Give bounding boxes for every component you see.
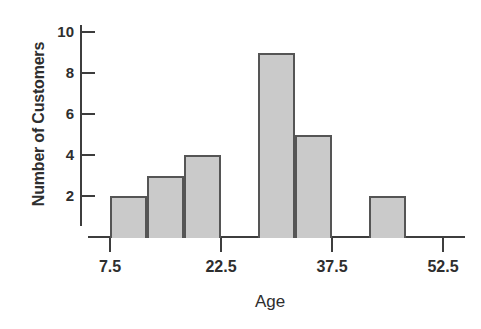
y-tick-mark: [82, 31, 95, 33]
y-tick-label-text: 4: [44, 147, 74, 162]
histogram-bar: [258, 53, 295, 239]
y-tick-label-text: 2: [44, 188, 74, 203]
histogram-bar: [295, 135, 332, 239]
histogram-bar: [147, 176, 184, 239]
y-tick-label-text: 10: [44, 24, 74, 39]
histogram-bar: [110, 196, 147, 238]
x-axis-title: Age: [190, 292, 350, 312]
y-tick-label: 6: [42, 106, 74, 121]
y-tick-mark: [82, 72, 95, 74]
histogram-bar: [184, 155, 221, 238]
x-tick-label: 7.5: [80, 258, 140, 276]
histogram-figure: Number of Customers 246810 7.522.537.552…: [0, 0, 481, 329]
y-tick-label: 4: [42, 147, 74, 162]
x-tick-mark: [331, 238, 333, 252]
y-tick-label-text: 6: [44, 106, 74, 121]
x-tick-label: 37.5: [302, 258, 362, 276]
y-tick-label-text: 8: [44, 65, 74, 80]
histogram-bar: [369, 196, 406, 238]
x-tick-label: 52.5: [413, 258, 473, 276]
y-tick-label: 10: [42, 24, 74, 39]
y-tick-label: 2: [42, 188, 74, 203]
y-tick-mark: [82, 113, 95, 115]
y-tick-label: 8: [42, 65, 74, 80]
x-tick-mark: [220, 238, 222, 252]
y-tick-mark: [82, 154, 95, 156]
y-tick-mark: [82, 195, 95, 197]
x-tick-mark: [442, 238, 444, 252]
x-tick-mark: [109, 238, 111, 252]
x-tick-label: 22.5: [191, 258, 251, 276]
